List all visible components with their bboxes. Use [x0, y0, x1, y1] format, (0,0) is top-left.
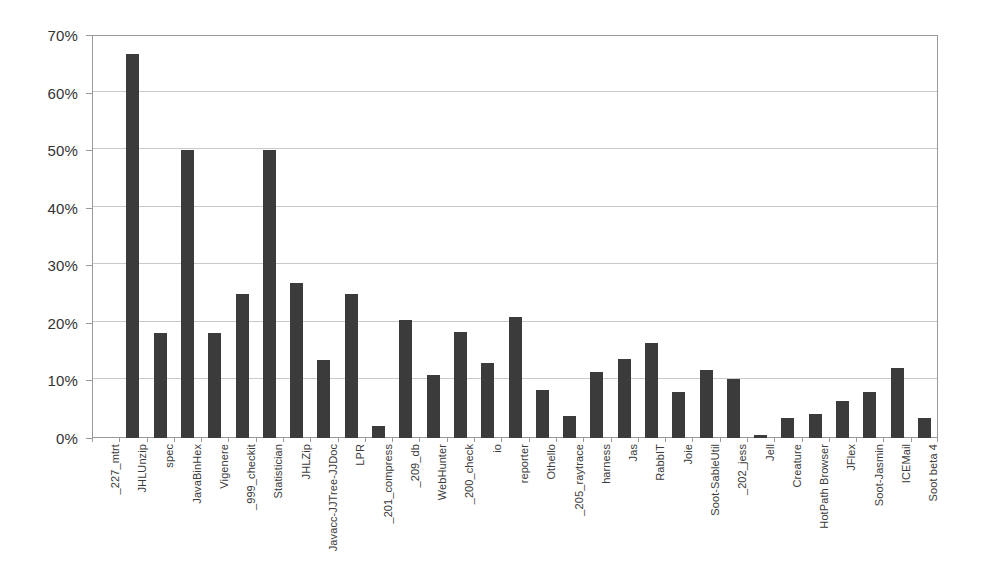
- x-axis-tick-mark: [583, 438, 584, 442]
- x-axis-tick-mark: [501, 438, 502, 442]
- x-axis-tick-mark: [474, 438, 475, 442]
- x-axis-tick-mark: [720, 438, 721, 442]
- x-axis-tick-mark: [228, 438, 229, 442]
- bar: [618, 359, 631, 438]
- x-axis-tick-mark: [937, 438, 938, 442]
- x-axis-tick-mark: [447, 438, 448, 442]
- x-axis-tick-mark: [692, 438, 693, 442]
- x-axis-tick-mark: [829, 438, 830, 442]
- x-axis-tick-mark: [119, 438, 120, 442]
- x-axis-tick-label: Othello: [546, 444, 557, 480]
- x-axis-tick-mark: [556, 438, 557, 442]
- x-axis-tick-label: Joie: [683, 444, 694, 465]
- bar: [645, 343, 658, 438]
- bar: [809, 414, 822, 438]
- x-axis-tick-label: Creature: [792, 444, 803, 488]
- bar: [427, 375, 440, 438]
- y-axis-tick-label: 30%: [47, 257, 78, 274]
- y-axis-tick-label: 70%: [47, 27, 78, 44]
- x-axis-tick-label: JHLUnzip: [137, 444, 148, 493]
- x-axis-tick-mark: [147, 438, 148, 442]
- x-axis-ticks: [92, 438, 938, 443]
- x-axis-tick-mark: [611, 438, 612, 442]
- bar: [236, 294, 249, 438]
- x-axis-tick-mark: [392, 438, 393, 442]
- x-axis-tick-label: JavaBinHex: [192, 444, 203, 504]
- x-axis-tick-label: Jell: [765, 444, 776, 461]
- y-axis-tick-label: 0%: [56, 430, 78, 447]
- x-axis: _227_mtrtJHLUnzipspecJavaBinHexVigenere_…: [92, 444, 938, 587]
- x-axis-tick-label: JFlex: [846, 444, 857, 471]
- x-axis-tick-label: Vigenere: [219, 444, 230, 489]
- x-axis-tick-label: harness: [601, 444, 612, 484]
- x-axis-tick-mark: [201, 438, 202, 442]
- x-axis-tick-mark: [774, 438, 775, 442]
- bar: [154, 333, 167, 438]
- x-axis-tick-mark: [665, 438, 666, 442]
- bar-chart: 0%10%20%30%40%50%60%70% _227_mtrtJHLUnzi…: [0, 0, 985, 587]
- x-axis-tick-label: Statistician: [273, 444, 284, 498]
- y-axis-tick-label: 40%: [47, 199, 78, 216]
- bar: [590, 372, 603, 438]
- x-axis-tick-mark: [310, 438, 311, 442]
- y-axis-tick-label: 50%: [47, 142, 78, 159]
- bar: [126, 54, 139, 438]
- bar: [345, 294, 358, 438]
- bar: [727, 379, 740, 438]
- x-axis-tick-mark: [856, 438, 857, 442]
- bar: [836, 401, 849, 438]
- x-axis-tick-label: JHLZip: [301, 444, 312, 479]
- bar: [781, 418, 794, 438]
- x-axis-tick-mark: [365, 438, 366, 442]
- x-axis-tick-label: _999_checkit: [246, 444, 257, 510]
- bar: [918, 418, 931, 438]
- y-axis-tick-label: 60%: [47, 84, 78, 101]
- y-axis-tick-label: 20%: [47, 314, 78, 331]
- x-axis-tick-mark: [92, 438, 93, 442]
- y-axis-tick-label: 10%: [47, 372, 78, 389]
- x-axis-tick-label: Jas: [628, 444, 639, 461]
- x-axis-tick-mark: [911, 438, 912, 442]
- bar-series: [92, 35, 938, 438]
- x-axis-tick-label: WebHunter: [437, 444, 448, 500]
- x-axis-tick-label: Javacc-JJTree-JJDoc: [328, 444, 339, 551]
- bar: [181, 150, 194, 438]
- bar: [536, 390, 549, 438]
- bar: [891, 368, 904, 438]
- bar: [399, 320, 412, 438]
- x-axis-tick-label: _209_db: [410, 444, 421, 488]
- x-axis-tick-mark: [529, 438, 530, 442]
- bar: [317, 360, 330, 438]
- x-axis-tick-mark: [256, 438, 257, 442]
- y-axis: 0%10%20%30%40%50%60%70%: [0, 0, 92, 460]
- x-axis-tick-mark: [747, 438, 748, 442]
- x-axis-tick-mark: [338, 438, 339, 442]
- x-axis-tick-label: _200_check: [464, 444, 475, 504]
- x-axis-tick-label: Soot beta 4: [928, 444, 939, 501]
- x-axis-tick-label: _202_jess: [737, 444, 748, 495]
- x-axis-tick-label: HotPath Browser: [819, 444, 830, 529]
- bar: [454, 332, 467, 439]
- x-axis-tick-mark: [638, 438, 639, 442]
- x-axis-tick-mark: [174, 438, 175, 442]
- bar: [563, 416, 576, 438]
- x-axis-tick-mark: [883, 438, 884, 442]
- x-axis-tick-label: LPR: [355, 444, 366, 466]
- bar: [509, 317, 522, 438]
- x-axis-tick-label: io: [492, 444, 503, 453]
- x-axis-tick-label: _201_compress: [383, 444, 394, 524]
- x-axis-tick-label: spec: [164, 444, 175, 468]
- bar: [672, 392, 685, 438]
- bar: [481, 363, 494, 438]
- bar: [290, 283, 303, 438]
- x-axis-tick-label: _205_raytrace: [574, 444, 585, 516]
- x-axis-tick-mark: [283, 438, 284, 442]
- x-axis-tick-label: reporter: [519, 444, 530, 483]
- bar: [372, 426, 385, 438]
- bar: [700, 370, 713, 439]
- x-axis-tick-label: Soot-SableUtil: [710, 444, 721, 516]
- x-axis-tick-label: RabbIT: [655, 444, 666, 481]
- x-axis-tick-label: Soot-Jasmin: [874, 444, 885, 506]
- bar: [208, 333, 221, 438]
- x-axis-tick-label: _227_mtrt: [110, 444, 121, 494]
